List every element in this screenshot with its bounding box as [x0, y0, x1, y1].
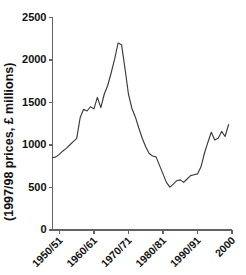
- y-tick-label: 1500: [22, 96, 46, 108]
- x-tick-label: 1950/51: [29, 234, 64, 269]
- x-tick-label: 1980/81: [133, 234, 168, 269]
- x-tick-label: 2000: [212, 234, 237, 259]
- x-tick-label: 1990/91: [168, 234, 203, 269]
- y-tick-label: 2000: [22, 53, 46, 65]
- y-tick-label-group: 05001000150020002500: [22, 11, 46, 236]
- line-chart: 05001000150020002500 1950/511960/611970/…: [0, 0, 246, 275]
- x-tick-label: 1960/61: [64, 234, 99, 269]
- chart-canvas: 05001000150020002500 1950/511960/611970/…: [0, 0, 246, 275]
- y-tick-label: 0: [40, 223, 46, 235]
- y-axis-title: (1997/98 prices, £ millions): [2, 63, 16, 221]
- y-tick-label: 1000: [22, 138, 46, 150]
- data-series-line: [53, 43, 229, 187]
- x-tick-label-group: 1950/511960/611970/711980/811990/912000: [29, 234, 237, 269]
- y-tick-label: 500: [28, 181, 46, 193]
- y-tick-label: 2500: [22, 11, 46, 23]
- x-tick-label: 1970/71: [99, 234, 134, 269]
